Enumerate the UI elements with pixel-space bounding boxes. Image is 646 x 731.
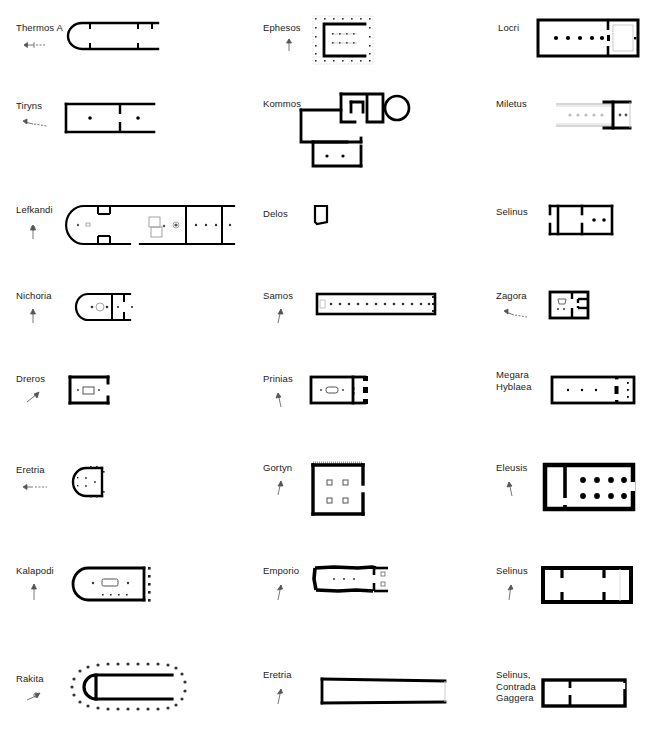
plan-cell-selinus-contrada-gaggera: Selinus, Contrada Gaggera [470, 655, 646, 731]
plan-label-megara-hyblaea: Megara Hyblaea [496, 369, 532, 392]
plan-cell-locri: Locri [470, 0, 646, 90]
plan-cell-zagora: Zagora [470, 280, 646, 370]
scale-icon-rakita [22, 689, 48, 709]
plan-art-gortyn [308, 458, 370, 520]
plan-label-lefkandi: Lefkandi [16, 204, 53, 216]
plan-label-nichoria: Nichoria [16, 290, 52, 302]
plan-cell-dreros: Dreros [0, 365, 220, 455]
plan-art-selinus-r3 [546, 202, 636, 238]
plan-label-dreros: Dreros [16, 373, 45, 385]
plan-label-selinus-r7: Selinus [496, 565, 528, 577]
scale-icon-tiryns [20, 116, 52, 134]
plan-label-miletus: Miletus [496, 98, 527, 110]
plan-art-delos [311, 202, 341, 232]
scale-icon-eretria-r8 [271, 685, 289, 711]
plan-cell-eretria-r6: Eretria [0, 450, 220, 545]
scale-icon-eretria-r6 [20, 480, 52, 498]
plan-label-eretria-r8: Eretria [263, 669, 292, 681]
scale-icon-prinias [271, 389, 289, 413]
plan-label-gortyn: Gortyn [263, 462, 292, 474]
plan-art-selinus-contrada-gaggera [538, 675, 634, 711]
scale-icon-thermos-a [20, 38, 50, 56]
plan-label-prinias: Prinias [263, 373, 293, 385]
scale-icon-lefkandi [24, 222, 42, 246]
scale-icon-nichoria [24, 306, 42, 330]
plan-label-eleusis: Eleusis [496, 462, 527, 474]
plan-art-kommos [295, 90, 415, 170]
plan-art-lefkandi [58, 200, 238, 256]
plan-art-eretria-r6 [66, 464, 114, 500]
plan-art-megara-hyblaea [548, 373, 640, 407]
plan-label-emporio: Emporio [263, 565, 299, 577]
plans-figure: Thermos A [0, 0, 646, 731]
plan-art-thermos-a [60, 20, 160, 55]
plan-cell-rakita: Rakita [0, 655, 220, 731]
plan-cell-megara-hyblaea: Megara Hyblaea [470, 365, 646, 455]
plan-label-selinus-r3: Selinus [496, 206, 528, 218]
scale-icon-eleusis [502, 478, 520, 502]
plan-art-selinus-r7 [538, 563, 638, 607]
plan-art-ephesos [307, 12, 387, 70]
plan-art-eleusis [540, 460, 640, 516]
plan-cell-prinias: Prinias [245, 365, 460, 455]
plan-art-prinias [307, 373, 373, 407]
scale-icon-zagora [500, 306, 532, 324]
plan-label-kalapodi: Kalapodi [16, 565, 54, 577]
plan-label-ephesos: Ephesos [263, 22, 301, 34]
plan-art-eretria-r8 [317, 675, 449, 709]
plan-cell-delos: Delos [245, 186, 460, 286]
plan-cell-eretria-r8: Eretria [245, 655, 460, 731]
plan-cell-eleusis: Eleusis [470, 450, 646, 545]
plan-label-eretria-r6: Eretria [16, 464, 45, 476]
plan-cell-miletus: Miletus [470, 90, 646, 180]
plan-label-samos: Samos [263, 290, 293, 302]
plan-art-miletus [552, 96, 642, 136]
plan-cell-samos: Samos [245, 280, 460, 370]
plan-label-rakita: Rakita [16, 673, 44, 685]
scale-icon-kalapodi [26, 581, 44, 607]
plan-label-locri: Locri [498, 22, 519, 34]
plan-cell-kalapodi: Kalapodi [0, 545, 220, 640]
plan-label-tiryns: Tiryns [16, 100, 42, 112]
plan-art-samos [313, 290, 438, 320]
plan-label-zagora: Zagora [496, 290, 527, 302]
scale-icon-gortyn [271, 478, 289, 502]
plan-cell-nichoria: Nichoria [0, 280, 220, 370]
plan-cell-emporio: Emporio [245, 545, 460, 640]
plan-art-kalapodi [66, 563, 162, 605]
plan-art-nichoria [66, 290, 142, 326]
plan-art-dreros [66, 373, 114, 407]
plan-cell-thermos-a: Thermos A [0, 0, 220, 90]
plan-cell-selinus-r3: Selinus [470, 186, 646, 286]
plan-cell-ephesos: Ephesos [245, 0, 460, 90]
plan-art-rakita [62, 657, 192, 719]
scale-icon-ephesos [281, 36, 297, 58]
scale-icon-selinus-r7 [502, 581, 520, 607]
plan-label-delos: Delos [263, 208, 288, 220]
scale-icon-emporio [271, 581, 289, 607]
plan-cell-tiryns: Tiryns [0, 90, 220, 180]
plan-label-selinus-contrada-gaggera: Selinus, Contrada Gaggera [496, 669, 536, 704]
plan-art-tiryns [62, 100, 158, 140]
plan-cell-gortyn: Gortyn [245, 450, 460, 545]
plan-art-emporio [310, 563, 400, 597]
plan-cell-selinus-r7: Selinus [470, 545, 646, 640]
plan-label-thermos-a: Thermos A [16, 22, 63, 34]
plan-cell-lefkandi: Lefkandi [0, 186, 245, 286]
plan-art-locri [534, 16, 642, 60]
plan-cell-kommos: Kommos [245, 90, 460, 180]
plan-art-zagora [546, 288, 592, 322]
scale-icon-dreros [22, 389, 48, 411]
scale-icon-samos [271, 306, 289, 330]
